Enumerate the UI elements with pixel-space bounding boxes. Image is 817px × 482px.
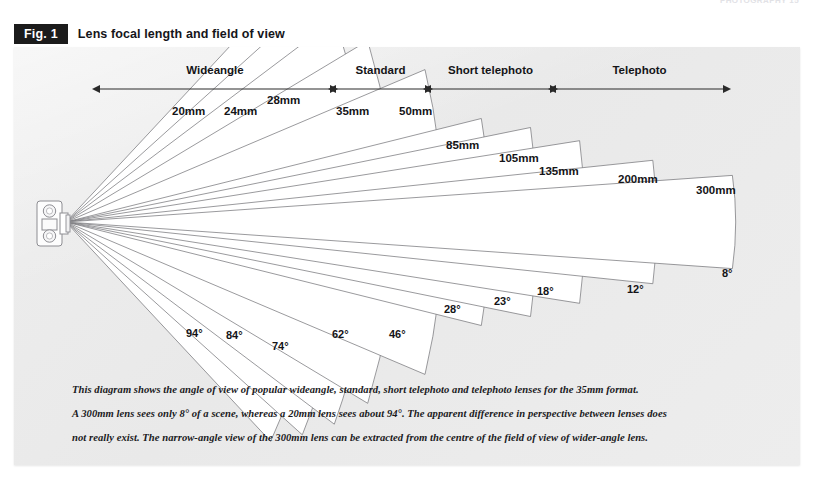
angle-label-105mm: 23° [494, 295, 511, 307]
focal-length-label-35mm: 35mm [336, 105, 369, 117]
angle-label-50mm: 46° [389, 328, 406, 340]
diagram-panel: WideangleStandardShort telephotoTelephot… [14, 47, 800, 465]
figure-caption: This diagram shows the angle of view of … [72, 383, 772, 455]
scale-label-wideangle: Wideangle [186, 64, 243, 76]
figure-number-tag: Fig. 1 [14, 24, 68, 44]
focal-length-label-20mm: 20mm [172, 105, 205, 117]
angle-label-200mm: 12° [627, 283, 644, 295]
focal-length-label-28mm: 28mm [267, 94, 300, 106]
running-head: PHOTOGRAPHY 15 [720, 0, 799, 5]
focal-length-label-135mm: 135mm [539, 165, 579, 177]
scale-label-short-telephoto: Short telephoto [448, 64, 533, 76]
figure-page: PHOTOGRAPHY 15 Fig. 1 Lens focal length … [0, 0, 817, 482]
angle-label-85mm: 28° [444, 303, 461, 315]
scale-label-standard: Standard [356, 64, 406, 76]
angle-label-300mm: 8° [722, 267, 733, 279]
angle-label-28mm: 74° [272, 340, 289, 352]
caption-line-3: not really exist. The narrow-angle view … [72, 431, 772, 444]
caption-line-2: A 300mm lens sees only 8° of a scene, wh… [72, 407, 772, 420]
focal-length-label-105mm: 105mm [499, 152, 539, 164]
caption-line-1: This diagram shows the angle of view of … [72, 383, 772, 396]
twin-lens-camera-icon [37, 201, 70, 246]
focal-length-label-24mm: 24mm [224, 105, 257, 117]
angle-label-20mm: 94° [186, 327, 203, 339]
scale-label-telephoto: Telephoto [612, 64, 666, 76]
focal-length-label-85mm: 85mm [446, 139, 479, 151]
figure-header: Fig. 1 Lens focal length and field of vi… [14, 24, 285, 44]
focal-length-label-200mm: 200mm [618, 173, 658, 185]
figure-title: Lens focal length and field of view [78, 27, 285, 41]
angle-label-24mm: 84° [226, 329, 243, 341]
angle-label-35mm: 62° [332, 328, 349, 340]
focal-length-label-50mm: 50mm [399, 105, 432, 117]
angle-label-135mm: 18° [537, 285, 554, 297]
focal-length-label-300mm: 300mm [696, 184, 736, 196]
